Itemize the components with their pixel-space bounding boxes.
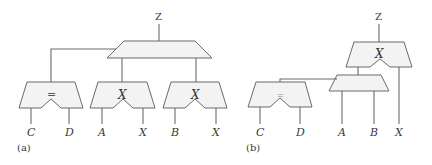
panel-a-output-label: Z [155, 11, 162, 22]
panel-b: Z X = C D A B X (b) [246, 11, 412, 153]
panel-a-input-label-c: C [27, 126, 36, 139]
panel-b-x-block-label: X [374, 47, 384, 61]
panel-a-input-label-b: B [170, 126, 179, 139]
panel-a-input-label-d: D [64, 126, 74, 139]
panel-b-input-label-d: D [295, 126, 305, 139]
panel-a-input-label-a: A [97, 126, 106, 139]
panel-b-caption: (b) [246, 142, 260, 153]
panel-a-caption: (a) [17, 142, 31, 153]
panel-a-compare-to-top-wire [51, 49, 116, 82]
panel-b-output-label: Z [375, 11, 382, 22]
panel-a-input-label-x1: X [138, 126, 148, 139]
panel-a-compare-label: = [47, 88, 56, 101]
panel-a-x-block-1-label: X [117, 88, 127, 102]
panel-a-x-block-2-label: X [190, 88, 200, 102]
panel-b-input-label-b: B [369, 126, 378, 139]
panel-b-middle-block [329, 75, 389, 91]
panel-b-input-label-x: X [394, 126, 404, 139]
panel-b-input-label-a: A [337, 126, 346, 139]
panel-a-top-block [107, 41, 212, 58]
panel-b-compare-label: = [277, 91, 284, 100]
panel-a-input-label-x2: X [211, 126, 221, 139]
panel-a: Z = C D X A X X B X (a) [17, 11, 227, 153]
diagram-canvas: Z = C D X A X X B X (a) Z [0, 0, 432, 165]
panel-b-input-label-c: C [256, 126, 265, 139]
